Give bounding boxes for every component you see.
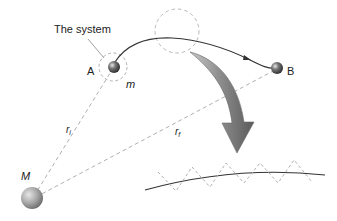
- system-boundary-circle-mid: [155, 9, 199, 53]
- label-r-final: rf: [175, 126, 181, 138]
- bottom-solid-curve: [145, 172, 325, 190]
- label-r-initial-sub: i: [69, 129, 71, 136]
- bottom-dashed-wave: [158, 160, 312, 191]
- label-a: A: [87, 65, 95, 77]
- label-large-m: M: [21, 170, 31, 182]
- trajectory-path: [115, 38, 277, 68]
- label-r-initial: ri: [66, 124, 71, 136]
- curved-transition-arrow-icon: [190, 52, 254, 153]
- label-r-final-sub: f: [178, 131, 181, 138]
- gravitational-system-diagram: The system A B m M ri rf: [0, 0, 337, 221]
- label-the-system: The system: [54, 23, 111, 35]
- sphere-m-at-a: [108, 61, 120, 73]
- label-b: B: [287, 65, 294, 77]
- system-leader-line: [88, 39, 104, 58]
- label-small-m: m: [126, 78, 135, 90]
- trajectory-arrowhead-icon: [243, 55, 251, 60]
- sphere-large-m: [21, 187, 43, 209]
- sphere-at-b: [271, 62, 283, 74]
